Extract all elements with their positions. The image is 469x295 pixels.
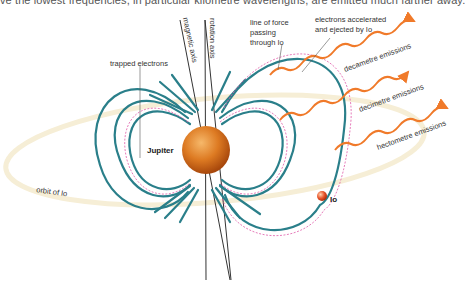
label-electrons-1: electrons accelerated — [315, 15, 386, 24]
label-hectometre: hectometre emissions — [376, 118, 448, 151]
label-jupiter: Jupiter — [147, 146, 174, 155]
label-line-of-force-2: passing — [250, 28, 276, 37]
label-electrons-2: and ejected by Io — [315, 25, 372, 34]
io-moon — [317, 191, 327, 201]
label-rotation-axis: rotation axis — [208, 18, 217, 59]
label-io: Io — [330, 195, 337, 204]
label-trapped-electrons: trapped electrons — [110, 59, 168, 68]
label-line-of-force-3: through Io — [250, 38, 284, 47]
label-line-of-force-1: line of force — [250, 18, 289, 27]
jupiter-planet — [182, 126, 230, 174]
